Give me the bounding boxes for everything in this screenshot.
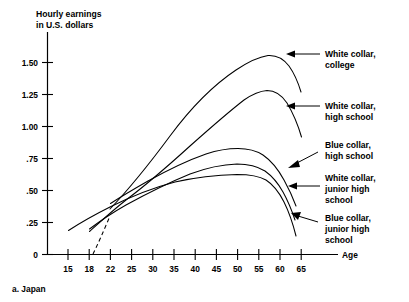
arrow-head-blue-collar-junior-high <box>291 212 301 220</box>
arrow-head-blue-collar-high-school <box>288 160 300 168</box>
leader-line-blue-collar-junior-high <box>298 216 318 222</box>
y-axis-title-line2: in U.S. dollars <box>36 20 94 30</box>
y-tick-label-50: .50 <box>26 186 38 196</box>
figure-caption: a. Japan <box>12 284 46 294</box>
x-tick-label-18: 18 <box>85 264 95 274</box>
arrow-head-white-collar-junior-high <box>288 183 297 190</box>
y-tick-label-100: 1.00 <box>22 122 39 132</box>
x-tick-label-15: 15 <box>63 264 73 274</box>
legend-label-white-collar-junior-high-line1: White collar, <box>325 173 376 183</box>
x-tick-label-50: 50 <box>233 264 243 274</box>
y-axis-title-line1: Hourly earnings <box>36 9 102 19</box>
x-tick-label-35: 35 <box>169 264 179 274</box>
legend-label-white-collar-high-school-line1: White collar, <box>325 101 376 111</box>
legend-label-blue-collar-high-school-line1: Blue collar, <box>325 140 371 150</box>
earnings-age-chart: Hourly earnings in U.S. dollars 0 .25 .5… <box>0 0 409 302</box>
curve-white-collar-junior-high <box>90 164 296 229</box>
legend-label-white-collar-junior-high-line2: junior high <box>324 184 369 194</box>
legend-label-blue-collar-junior-high-line3: school <box>325 235 353 245</box>
y-tick-label-75: .75 <box>26 154 38 164</box>
x-tick-label-25: 25 <box>127 264 137 274</box>
x-tick-label-30: 30 <box>148 264 158 274</box>
legend-label-blue-collar-junior-high-line1: Blue collar, <box>325 213 371 223</box>
x-tick-label-55: 55 <box>254 264 264 274</box>
legend-label-white-collar-college-line2: college <box>325 60 355 70</box>
legend-label-blue-collar-junior-high-line2: junior high <box>324 224 369 234</box>
figure-container: Hourly earnings in U.S. dollars 0 .25 .5… <box>0 0 409 302</box>
legend-label-white-collar-junior-high-line3: school <box>325 195 353 205</box>
x-tick-label-40: 40 <box>191 264 201 274</box>
legend-label-blue-collar-high-school-line2: high school <box>325 151 373 161</box>
y-tick-label-25: .25 <box>26 218 38 228</box>
legend-label-white-collar-high-school-line2: high school <box>325 112 373 122</box>
x-tick-label-22: 22 <box>106 264 116 274</box>
curve-blue-collar-junior-high <box>69 175 297 237</box>
y-tick-label-0: 0 <box>33 250 38 260</box>
y-tick-label-125: 1.25 <box>22 90 39 100</box>
x-tick-label-65: 65 <box>297 264 307 274</box>
arrow-head-white-collar-college <box>286 51 295 58</box>
curve-dashed-extension <box>93 216 110 254</box>
x-axis-title: Age <box>342 250 358 260</box>
x-tick-label-45: 45 <box>212 264 222 274</box>
legend-label-white-collar-college-line1: White collar, <box>325 49 376 59</box>
x-tick-label-60: 60 <box>275 264 285 274</box>
y-tick-label-150: 1.50 <box>22 58 39 68</box>
